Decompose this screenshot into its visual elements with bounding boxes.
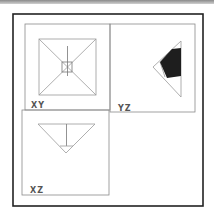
panel-label-xz: XZ bbox=[30, 186, 44, 195]
panel-xz: XZ bbox=[22, 110, 109, 195]
panel-yz-border bbox=[110, 24, 195, 112]
panel-yz: YZ bbox=[110, 24, 195, 113]
xy-pyramid-drawing bbox=[39, 39, 96, 95]
projection-figure: XY YZ XZ bbox=[0, 0, 214, 216]
panel-label-yz: YZ bbox=[117, 104, 132, 113]
panel-xy: XY bbox=[25, 24, 110, 110]
yz-dark-face bbox=[160, 48, 181, 78]
xz-triangle-drawing bbox=[38, 124, 95, 153]
panel-label-xy: XY bbox=[31, 101, 45, 110]
